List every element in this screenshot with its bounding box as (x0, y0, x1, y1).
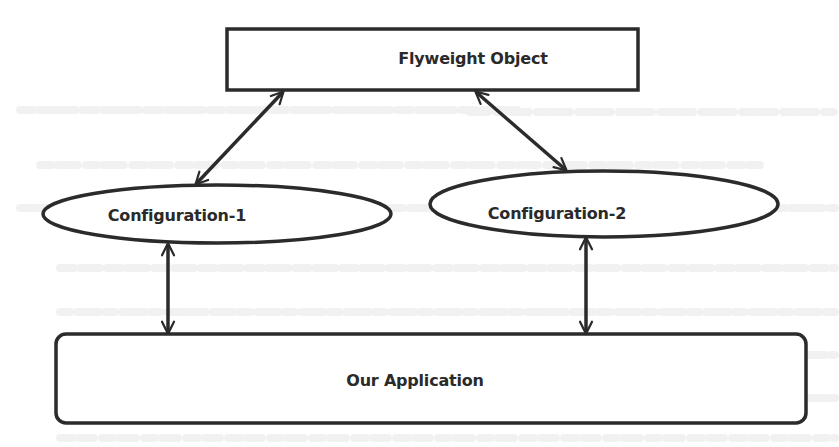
configuration-1-label: Configuration-1 (108, 206, 246, 225)
configuration-2-label: Configuration-2 (488, 204, 626, 223)
flyweight-object-label: Flyweight Object (398, 49, 547, 68)
arrow-flyweight-config2 (476, 92, 566, 170)
our-application-label: Our Application (346, 371, 484, 390)
arrow-flyweight-config1 (196, 92, 283, 184)
diagram-canvas: Flyweight Object Configuration-1 Configu… (0, 0, 839, 447)
